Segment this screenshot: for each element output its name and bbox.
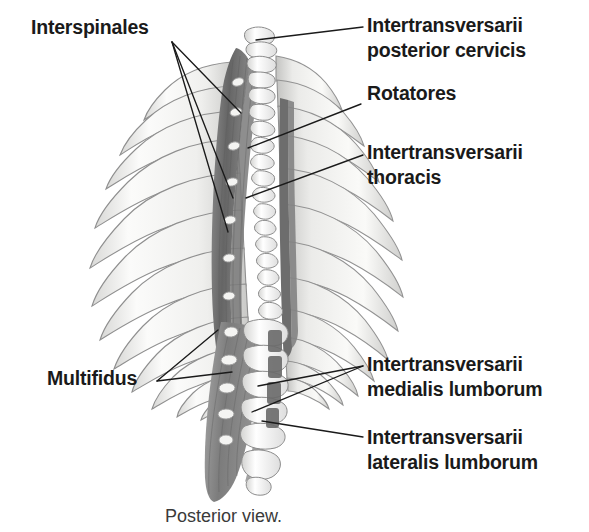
label-intertransversarii-thoracis: Intertransversarii thoracis [367,140,523,190]
label-intertransversarii-lateralis-lumborum: Intertransversarii lateralis lumborum [367,425,538,475]
figure-caption: Posterior view. [165,506,282,527]
label-intertransversarii-medialis-lumborum: Intertransversarii medialis lumborum [367,352,542,402]
label-rotatores: Rotatores [367,81,456,106]
anatomy-figure: Interspinales Intertransversarii posteri… [0,0,589,532]
label-intertransversarii-posterior-cervicis: Intertransversarii posterior cervicis [367,13,526,63]
label-interspinales: Interspinales [31,15,149,40]
label-multifidus: Multifidus [47,366,137,391]
